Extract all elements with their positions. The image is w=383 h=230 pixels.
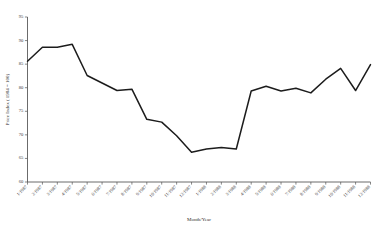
x-axis-tick-label: 12/1988 [357, 184, 372, 199]
x-axis-tick-label: 9/1988 [314, 184, 327, 197]
x-axis-tick-label: 10/1988 [327, 184, 342, 199]
x-axis-tick-label: 1/1988 [195, 184, 208, 197]
x-axis-tick-label: 1/1987 [16, 184, 29, 197]
x-axis-tick-label: 11/1988 [342, 184, 357, 199]
x-axis-tick-label: 6/1987 [90, 184, 103, 197]
x-axis-tick-label: 8/1987 [120, 184, 133, 197]
y-axis-tick-label: 90 [19, 38, 24, 43]
y-axis-title: Price Index ( 1984 = 100) [5, 73, 10, 125]
x-axis-tick-label: 4/1988 [239, 184, 252, 197]
x-axis-tick-label: 4/1987 [60, 184, 73, 197]
x-axis-tick-label: 2/1987 [31, 184, 44, 197]
y-axis-tick-label: 60 [19, 179, 24, 184]
x-axis-tick-label: 5/1988 [254, 184, 267, 197]
x-axis-tick-label: 6/1988 [269, 184, 282, 197]
x-axis-title: Month/Year [187, 217, 211, 222]
x-axis-tick-group: 1/19872/19873/19874/19875/19876/19877/19… [16, 182, 372, 198]
x-axis-tick-label: 5/1987 [75, 184, 88, 197]
x-axis-tick-label: 12/1987 [178, 184, 193, 199]
y-axis-tick-label: 65 [19, 155, 24, 160]
x-axis-tick-label: 3/1987 [45, 184, 58, 197]
y-axis-tick-label: 70 [19, 132, 24, 137]
y-axis-tick-label: 80 [19, 85, 24, 90]
y-axis-tick-label: 95 [19, 14, 24, 19]
x-axis-tick-label: 7/1987 [105, 184, 118, 197]
x-axis-tick-label: 3/1988 [224, 184, 237, 197]
x-axis-tick-label: 2/1988 [210, 184, 223, 197]
x-axis-tick-label: 7/1988 [284, 184, 297, 197]
data-series-line [28, 44, 371, 152]
x-axis-tick-label: 10/1987 [148, 184, 163, 199]
line-chart: 6065707580859095 1/19872/19873/19874/198… [0, 0, 383, 230]
y-axis-tick-label: 75 [19, 108, 24, 113]
x-axis-tick-label: 11/1987 [163, 184, 178, 199]
x-axis-tick-label: 9/1987 [135, 184, 148, 197]
x-axis-tick-label: 8/1988 [299, 184, 312, 197]
chart-figure: 6065707580859095 1/19872/19873/19874/198… [0, 0, 383, 230]
y-axis-tick-group: 6065707580859095 [19, 14, 28, 184]
y-axis-tick-label: 85 [19, 61, 24, 66]
